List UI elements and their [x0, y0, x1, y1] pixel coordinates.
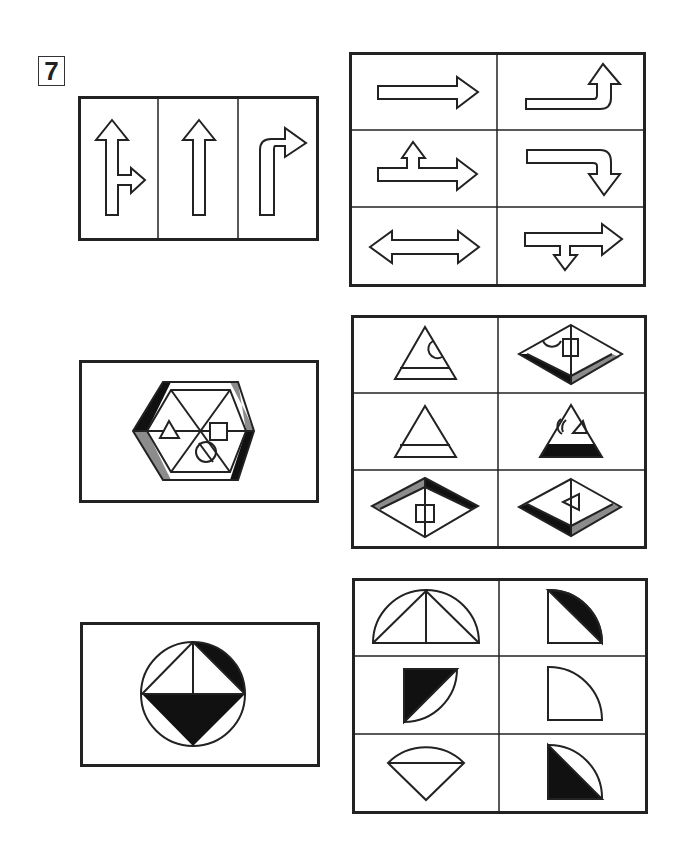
option-2b[interactable] [548, 667, 602, 720]
sector-shape-icon [388, 747, 464, 800]
option-1b[interactable] [548, 590, 602, 643]
option-1a[interactable] [373, 590, 479, 643]
option-3b[interactable] [548, 745, 602, 799]
problem-3-option-figures [0, 0, 677, 841]
quarter-circle-shape-icon [548, 667, 602, 720]
option-2a[interactable] [404, 669, 457, 722]
option-3a[interactable] [388, 747, 464, 800]
